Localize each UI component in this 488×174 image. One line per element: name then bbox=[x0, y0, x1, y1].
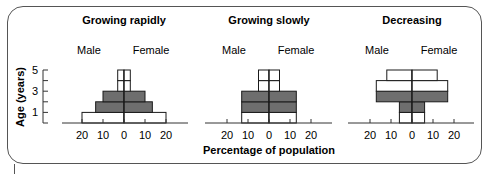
bar-female-1-2 bbox=[412, 102, 425, 113]
x-tick-label: 20 bbox=[76, 129, 88, 141]
bar-female-2-3 bbox=[269, 91, 296, 102]
x-tick-label: 20 bbox=[221, 129, 233, 141]
bar-female-0-1 bbox=[412, 112, 425, 123]
bar-male-0-1 bbox=[399, 112, 412, 123]
bar-female-4-5 bbox=[412, 70, 437, 81]
x-tick-label: 10 bbox=[427, 129, 439, 141]
x-tick-label: 0 bbox=[409, 129, 415, 141]
female-label: Female bbox=[421, 44, 458, 56]
x-tick-label: 10 bbox=[139, 129, 151, 141]
bar-male-3-4 bbox=[118, 81, 124, 92]
male-label: Male bbox=[77, 44, 101, 56]
bar-female-2-3 bbox=[124, 91, 145, 102]
x-tick-label: 20 bbox=[305, 129, 317, 141]
x-tick-label: 10 bbox=[97, 129, 109, 141]
x-tick-label: 20 bbox=[364, 129, 376, 141]
population-pyramids-chart: Age (years) 5 3 1 Growing rapidlyMaleFem… bbox=[0, 0, 488, 174]
bar-female-4-5 bbox=[124, 70, 130, 81]
x-tick-label: 10 bbox=[242, 129, 254, 141]
x-tick-label: 10 bbox=[385, 129, 397, 141]
panel-title: Growing slowly bbox=[228, 14, 310, 26]
y-tick-1: 1 bbox=[32, 106, 38, 118]
bar-female-2-3 bbox=[412, 91, 448, 102]
bar-female-4-5 bbox=[269, 70, 280, 81]
bar-male-1-2 bbox=[96, 102, 124, 113]
male-label: Male bbox=[222, 44, 246, 56]
bar-male-3-4 bbox=[376, 81, 412, 92]
bar-male-1-2 bbox=[242, 102, 269, 113]
y-axis: Age (years) 5 3 1 bbox=[14, 64, 48, 127]
x-tick-label: 20 bbox=[160, 129, 172, 141]
bar-male-4-5 bbox=[259, 70, 270, 81]
bar-female-1-2 bbox=[269, 102, 296, 113]
x-tick-label: 0 bbox=[266, 129, 272, 141]
x-tick-label: 20 bbox=[448, 129, 460, 141]
female-label: Female bbox=[133, 44, 170, 56]
y-axis-title: Age (years) bbox=[14, 67, 26, 127]
panel-growing-rapidly: Growing rapidlyMaleFemale201001020 bbox=[62, 14, 188, 141]
male-label: Male bbox=[365, 44, 389, 56]
panel-growing-slowly: Growing slowlyMaleFemale201001020 bbox=[205, 14, 332, 141]
x-axis-title: Percentage of population bbox=[203, 144, 335, 156]
bar-male-3-4 bbox=[259, 81, 270, 92]
bar-male-0-1 bbox=[242, 112, 269, 123]
y-tick-3: 3 bbox=[32, 85, 38, 97]
bar-female-3-4 bbox=[124, 81, 130, 92]
bar-female-3-4 bbox=[412, 81, 448, 92]
panel-title: Decreasing bbox=[382, 14, 441, 26]
x-tick-label: 0 bbox=[121, 129, 127, 141]
bar-female-3-4 bbox=[269, 81, 280, 92]
bar-female-1-2 bbox=[124, 102, 152, 113]
bar-male-2-3 bbox=[103, 91, 124, 102]
panel-decreasing: DecreasingMaleFemale201001020 bbox=[348, 14, 474, 141]
bar-male-2-3 bbox=[242, 91, 269, 102]
bar-male-2-3 bbox=[376, 91, 412, 102]
x-tick-label: 10 bbox=[284, 129, 296, 141]
y-tick-5: 5 bbox=[32, 64, 38, 76]
female-label: Female bbox=[278, 44, 315, 56]
bar-male-4-5 bbox=[387, 70, 412, 81]
bar-male-1-2 bbox=[399, 102, 412, 113]
bar-female-0-1 bbox=[269, 112, 296, 123]
panel-title: Growing rapidly bbox=[82, 14, 167, 26]
bar-male-4-5 bbox=[118, 70, 124, 81]
